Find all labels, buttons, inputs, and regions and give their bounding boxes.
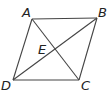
label-c: C bbox=[81, 78, 91, 91]
label-a: A bbox=[21, 5, 31, 20]
segment-bc bbox=[79, 18, 97, 80]
label-e: E bbox=[38, 42, 47, 57]
segment-bd bbox=[13, 18, 97, 80]
segment-ab bbox=[32, 18, 97, 19]
segment-da bbox=[13, 19, 32, 80]
label-d: D bbox=[1, 78, 11, 91]
parallelogram-diagram: A B C D E bbox=[0, 0, 109, 91]
label-b: B bbox=[98, 5, 107, 20]
segments bbox=[13, 18, 97, 80]
